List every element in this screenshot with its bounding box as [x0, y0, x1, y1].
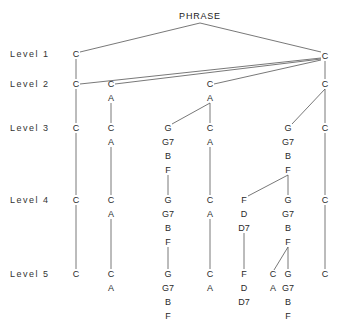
- chord-label: C: [322, 196, 329, 205]
- chord-label: G7: [282, 138, 294, 147]
- chord-label: B: [165, 224, 171, 233]
- level-5-label: Level 5: [10, 269, 50, 279]
- level-3-label: Level 3: [10, 123, 50, 133]
- chord-label: C: [108, 270, 115, 279]
- chord-label: C: [322, 270, 329, 279]
- chord-label: G7: [282, 284, 294, 293]
- chord-label: F: [165, 166, 171, 175]
- tree-edge: [248, 175, 288, 196]
- chord-label: A: [270, 284, 276, 293]
- tree-edge: [292, 89, 325, 124]
- chord-label: C: [73, 80, 80, 89]
- chord-label: A: [108, 138, 114, 147]
- chord-label: G: [164, 270, 171, 279]
- chord-label: G7: [162, 210, 174, 219]
- tree-diagram: PHRASE Level 1 Level 2 Level 3 Level 4 L…: [0, 0, 342, 332]
- chord-label: C: [207, 124, 214, 133]
- chord-label: C: [108, 124, 115, 133]
- chord-label: D7: [238, 298, 250, 307]
- chord-label: A: [108, 94, 114, 103]
- chord-label: A: [207, 210, 213, 219]
- chord-label: C: [322, 124, 329, 133]
- chord-label: B: [165, 298, 171, 307]
- level-4-label: Level 4: [10, 195, 50, 205]
- tree-edge: [115, 59, 321, 84]
- chord-label: A: [108, 284, 114, 293]
- chord-label: F: [285, 166, 291, 175]
- chord-label: F: [241, 270, 247, 279]
- chord-label: G: [284, 196, 291, 205]
- chord-label: B: [285, 298, 291, 307]
- chord-label: C: [73, 50, 80, 59]
- chord-label: B: [165, 152, 171, 161]
- chord-label: D7: [238, 224, 250, 233]
- chord-label: G: [164, 124, 171, 133]
- chord-label: C: [108, 80, 115, 89]
- chord-label: G: [284, 270, 291, 279]
- chord-label: G7: [162, 284, 174, 293]
- chord-label: G: [284, 124, 291, 133]
- chord-label: F: [165, 238, 171, 247]
- tree-edge: [200, 23, 321, 52]
- level-2-label: Level 2: [10, 79, 50, 89]
- chord-label: A: [108, 210, 114, 219]
- chord-label: C: [207, 270, 214, 279]
- chord-label: C: [73, 270, 80, 279]
- chord-label: A: [207, 138, 213, 147]
- chord-label: F: [285, 312, 291, 321]
- chord-label: C: [73, 196, 80, 205]
- phrase-title: PHRASE: [179, 11, 221, 21]
- chord-label: C: [73, 124, 80, 133]
- chord-label: C: [207, 80, 214, 89]
- chord-label: G: [164, 196, 171, 205]
- chord-label: A: [207, 94, 213, 103]
- chord-label: G7: [162, 138, 174, 147]
- chord-label: B: [285, 152, 291, 161]
- chord-label: C: [322, 80, 329, 89]
- chord-label: D: [241, 210, 248, 219]
- chord-label: F: [241, 196, 247, 205]
- chord-label: G7: [282, 210, 294, 219]
- chord-label: C: [207, 196, 214, 205]
- tree-edge: [172, 103, 210, 124]
- chord-label: F: [165, 312, 171, 321]
- chord-label: B: [285, 224, 291, 233]
- chord-label: C: [108, 196, 115, 205]
- chord-label: D: [241, 284, 248, 293]
- chord-label: C: [270, 270, 277, 279]
- tree-edge: [80, 58, 321, 84]
- chord-label: A: [207, 284, 213, 293]
- tree-edge: [274, 247, 288, 270]
- chord-label: C: [322, 52, 329, 61]
- chord-label: F: [285, 238, 291, 247]
- level-1-label: Level 1: [10, 49, 50, 59]
- tree-edge: [80, 23, 200, 52]
